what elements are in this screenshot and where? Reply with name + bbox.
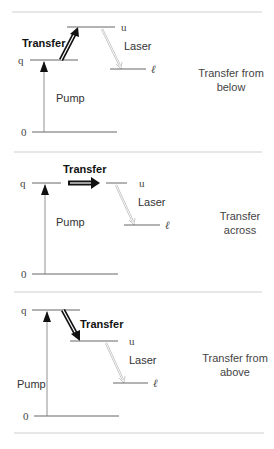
q-label: q xyxy=(18,54,24,66)
panel-transfer-across: 0 q Pump Transfer u Laser ℓ Transfer acr… xyxy=(20,163,261,280)
u-label: u xyxy=(129,335,135,347)
transfer-label: Transfer xyxy=(80,318,124,330)
u-label: u xyxy=(121,21,127,33)
transfer-label: Transfer xyxy=(22,37,66,49)
q-label: q xyxy=(20,177,26,189)
transfer-arrow xyxy=(63,310,80,341)
l-label: ℓ xyxy=(165,219,170,231)
l-label: ℓ xyxy=(153,377,158,389)
u-label: u xyxy=(139,177,145,189)
caption-line-1: Transfer from xyxy=(198,67,264,79)
laser-label: Laser xyxy=(138,196,166,208)
pump-label: Pump xyxy=(17,378,46,390)
laser-label: Laser xyxy=(124,40,152,52)
caption-line-1: Transfer xyxy=(220,210,261,222)
laser-arrow xyxy=(106,343,125,383)
transfer-label: Transfer xyxy=(63,163,107,175)
panel-transfer-from-above: 0 q Pump Transfer u Laser ℓ Transfer fro… xyxy=(17,304,268,422)
caption-line-1: Transfer from xyxy=(202,352,268,364)
pump-label: Pump xyxy=(56,216,85,228)
laser-label: Laser xyxy=(129,354,157,366)
caption-line-2: above xyxy=(220,366,250,378)
q-label: q xyxy=(21,304,27,316)
ground-label: 0 xyxy=(21,268,27,280)
ground-label: 0 xyxy=(23,410,29,422)
laser-arrow xyxy=(116,185,135,225)
pump-arrowhead-icon xyxy=(40,61,48,72)
laser-arrow xyxy=(102,29,122,69)
caption-line-2: across xyxy=(224,224,257,236)
energy-level-diagram: 0 q Pump Transfer u Laser ℓ Transfer fro… xyxy=(0,0,274,449)
pump-label: Pump xyxy=(56,92,85,104)
pump-arrowhead-icon xyxy=(43,311,51,322)
l-label: ℓ xyxy=(151,63,156,75)
caption-line-2: below xyxy=(217,81,246,93)
transfer-arrow xyxy=(68,177,100,189)
panel-transfer-from-below: 0 q Pump Transfer u Laser ℓ Transfer fro… xyxy=(18,21,264,138)
pump-arrowhead-icon xyxy=(41,184,49,195)
ground-label: 0 xyxy=(21,126,27,138)
